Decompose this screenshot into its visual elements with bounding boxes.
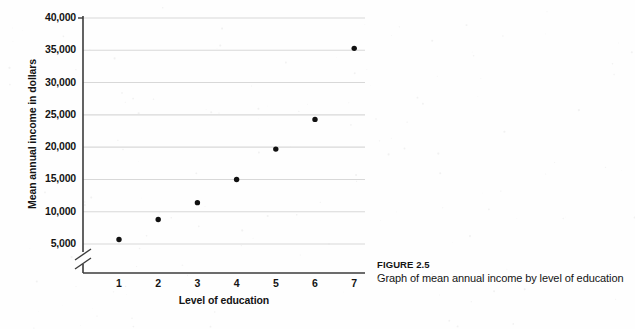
x-axis-tick-labels: 1234567 xyxy=(0,0,400,329)
x-tick-label-7: 7 xyxy=(342,277,366,289)
figure-caption: FIGURE 2.5 Graph of mean annual income b… xyxy=(377,258,627,285)
figure-caption-title: FIGURE 2.5 xyxy=(377,258,627,272)
x-tick-label-6: 6 xyxy=(303,277,327,289)
chart-plot-area: 5,00010,00015,00020,00025,00030,00035,00… xyxy=(0,0,400,329)
x-tick-label-1: 1 xyxy=(107,277,131,289)
figure-container: 5,00010,00015,00020,00025,00030,00035,00… xyxy=(0,0,635,329)
x-tick-label-5: 5 xyxy=(264,277,288,289)
x-tick-label-4: 4 xyxy=(225,277,249,289)
figure-caption-text: Graph of mean annual income by level of … xyxy=(377,272,627,286)
x-axis-title: Level of education xyxy=(83,294,365,306)
x-tick-label-3: 3 xyxy=(185,277,209,289)
x-tick-label-2: 2 xyxy=(146,277,170,289)
y-axis-title: Mean annual income in dollars xyxy=(26,34,38,234)
